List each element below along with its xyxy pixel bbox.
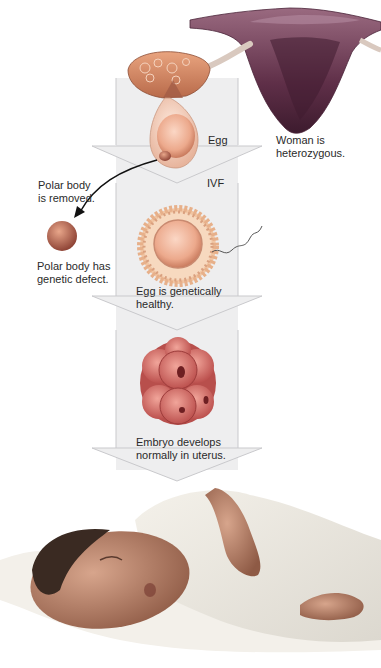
label-embryo-develops: Embryo develops normally in uterus.: [136, 436, 226, 461]
diagram-artwork: [0, 0, 381, 668]
label-ivf: IVF: [207, 177, 224, 190]
label-egg-healthy: Egg is genetically healthy.: [136, 285, 222, 310]
polar-body-illustration: [47, 221, 77, 251]
pgd-diagram: Egg Woman is heterozygous. IVF Polar bod…: [0, 0, 381, 668]
label-polar-body-defect: Polar body has genetic defect.: [37, 260, 110, 285]
sleeping-baby-photo: [0, 488, 381, 668]
label-egg: Egg: [208, 134, 228, 147]
fertilized-egg-illustration: [140, 208, 262, 284]
label-woman-heterozygous: Woman is heterozygous.: [276, 134, 345, 159]
label-polar-body-removed: Polar body is removed.: [38, 179, 95, 204]
